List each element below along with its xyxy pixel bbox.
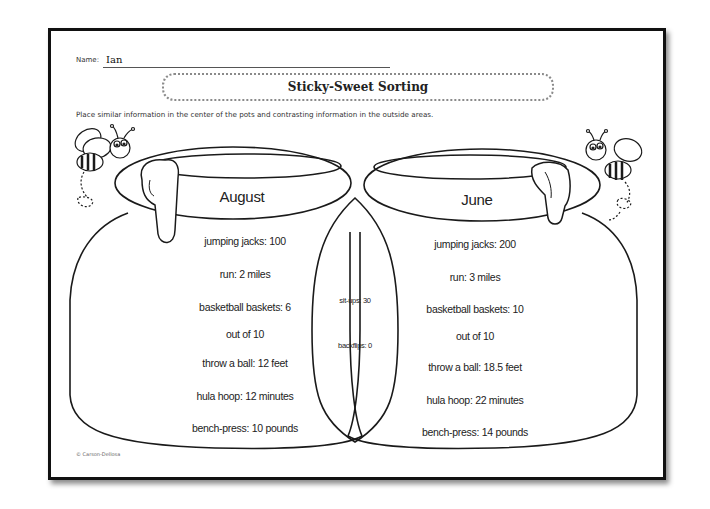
overlap-item: backflips: 0 (320, 341, 390, 350)
left-pot-item: throw a ball: 12 feet (160, 357, 330, 369)
right-pot-item: basketball baskets: 10 (390, 303, 560, 315)
copyright-notice: © Carson-Dellosa (76, 451, 120, 457)
left-pot-heading: August (190, 188, 294, 205)
left-pot-item: bench-press: 10 pounds (160, 422, 330, 434)
right-pot-heading: June (425, 191, 529, 208)
right-pot-item: hula hoop: 22 minutes (390, 394, 560, 406)
right-pot-item: run: 3 miles (390, 271, 560, 283)
right-pot-item: out of 10 (390, 330, 560, 342)
left-pot-item: out of 10 (160, 328, 330, 340)
left-pot-item: hula hoop: 12 minutes (160, 390, 330, 402)
left-pot-item: basketball baskets: 6 (160, 301, 330, 313)
left-pot-item: jumping jacks: 100 (160, 235, 330, 247)
left-pot-item: run: 2 miles (160, 268, 330, 280)
right-pot-item: bench-press: 14 pounds (390, 426, 560, 438)
right-pot-item: throw a ball: 18.5 feet (390, 361, 560, 373)
venn-pots-illustration (0, 0, 710, 509)
right-pot-item: jumping jacks: 200 (390, 238, 560, 250)
overlap-item: sit-ups: 30 (320, 296, 390, 305)
